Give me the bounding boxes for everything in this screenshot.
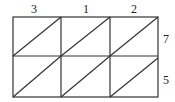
right-digit-1: 7	[163, 32, 169, 46]
top-digit-2: 1	[83, 2, 89, 16]
top-digit-3: 2	[131, 2, 137, 16]
cell-diagonals	[13, 17, 158, 97]
grid-lines	[13, 17, 158, 97]
right-digit-2: 5	[163, 73, 169, 87]
lattice-grid: 3 1 2 7 5	[0, 0, 175, 102]
top-digit-1: 3	[31, 2, 37, 16]
grid-border	[13, 17, 158, 97]
